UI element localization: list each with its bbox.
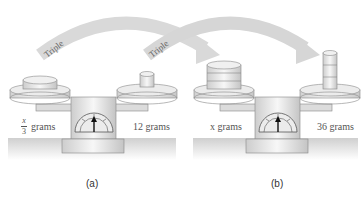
fraction-x-over-3: x 3 <box>21 117 27 136</box>
balance-scale-diagram: Triple Triple <box>0 0 363 202</box>
scale-base-a <box>62 139 124 153</box>
panel-caption-b: (b) <box>271 178 283 189</box>
scale-b <box>193 51 360 161</box>
fraction-denominator: 3 <box>22 127 26 136</box>
right-pan-a <box>117 72 177 105</box>
left-pan-b <box>194 61 254 104</box>
weight-tall-b <box>323 53 337 89</box>
right-pan-label-a: 12 grams <box>133 121 170 132</box>
panel-caption-a: (a) <box>86 178 98 189</box>
scale-base-b <box>246 139 308 153</box>
left-pan-label-b: x grams <box>210 121 242 132</box>
right-pan-label-b: 36 grams <box>317 121 354 132</box>
left-pan-label-a: grams <box>31 121 55 132</box>
left-pan-a <box>10 76 70 104</box>
fraction-numerator: x <box>22 116 26 125</box>
scale-a <box>8 72 177 161</box>
